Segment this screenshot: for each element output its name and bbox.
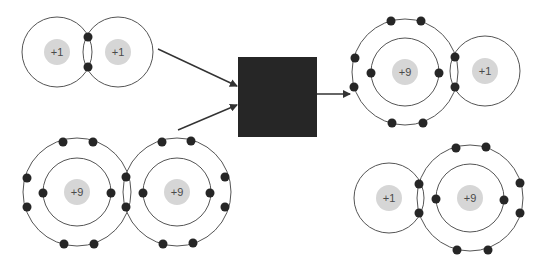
electron: [451, 83, 460, 92]
shared-electron-pair: [415, 180, 424, 218]
electron: [60, 240, 69, 249]
electron: [350, 83, 359, 92]
electron: [59, 138, 68, 147]
fluorine-atom: +9: [417, 143, 525, 255]
nucleus-charge-label: +9: [171, 186, 184, 198]
hydrogen-atom-right: +1: [83, 17, 153, 87]
nucleus-charge-label: +9: [71, 186, 84, 198]
fluorine-atom: +9: [350, 17, 459, 128]
hydrogen-atom: +1: [450, 36, 520, 106]
electron: [122, 203, 131, 212]
electron: [221, 203, 230, 212]
electron: [388, 119, 397, 128]
electron: [516, 209, 525, 218]
hydrogen-fluoride-molecule-1: +9 +1: [350, 17, 521, 128]
electron: [432, 195, 441, 204]
electron: [90, 240, 99, 249]
electron: [23, 174, 32, 183]
electron: [23, 203, 32, 212]
arrow-hydrogen-to-process: [158, 49, 237, 86]
electron: [435, 69, 444, 78]
electron: [415, 209, 424, 218]
electron: [419, 119, 428, 128]
hydrogen-atom: +1: [354, 163, 424, 233]
electron: [122, 173, 131, 182]
electron: [107, 189, 116, 198]
electron: [451, 53, 460, 62]
electron: [367, 69, 376, 78]
electron: [516, 179, 525, 188]
fluorine-atom-right: +9: [123, 137, 231, 249]
electron: [84, 33, 93, 42]
nucleus-charge-label: +1: [112, 46, 125, 58]
electron: [484, 246, 493, 255]
electron: [417, 17, 426, 26]
nucleus-charge-label: +1: [479, 65, 492, 77]
electron: [453, 246, 462, 255]
fluorine-atom-left: +9: [23, 138, 132, 249]
electron: [351, 54, 360, 63]
hydrogen-molecule: +1 +1: [22, 17, 153, 87]
electron: [482, 143, 491, 152]
electron: [189, 239, 198, 248]
electron: [89, 138, 98, 147]
electron: [415, 180, 424, 189]
electron: [158, 138, 167, 147]
hydrogen-atom-left: +1: [22, 17, 92, 87]
redacted-process-box: [238, 57, 317, 137]
electron: [187, 137, 196, 146]
electron: [159, 240, 168, 249]
hydrogen-fluoride-molecule-2: +1 +9: [354, 143, 525, 255]
electron: [387, 17, 396, 26]
electron: [206, 189, 215, 198]
electron: [39, 189, 48, 198]
nucleus-charge-label: +1: [51, 46, 64, 58]
nucleus-charge-label: +9: [464, 192, 477, 204]
electron: [84, 63, 93, 72]
nucleus-charge-label: +9: [399, 66, 412, 78]
arrow-fluorine-to-process: [178, 105, 237, 130]
electron: [500, 196, 509, 205]
shared-electron-pair: [84, 33, 93, 72]
electron: [139, 189, 148, 198]
reaction-diagram: +1 +1 +9: [0, 0, 546, 274]
electron: [452, 144, 461, 153]
fluorine-molecule: +9 +9: [23, 137, 232, 249]
electron: [221, 173, 230, 182]
nucleus-charge-label: +1: [383, 192, 396, 204]
